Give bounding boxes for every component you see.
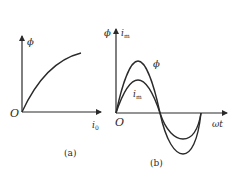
panel-a-y-label: ϕ: [27, 36, 34, 47]
panel-a-caption: (a): [64, 148, 76, 158]
panel-b-im-curve-label-sub: m: [136, 93, 142, 100]
panel-b-y-label-im-sub: m: [124, 32, 130, 39]
panel-a-x-label-sub: 0: [95, 124, 99, 131]
panel-b-im-curve: [116, 80, 201, 139]
panel-b-y-label-im: im: [121, 28, 130, 39]
panel-b: ϕ im ϕ im O ωt (b): [104, 27, 227, 168]
panel-b-caption: (b): [150, 158, 163, 168]
panel-a-x-label: i0: [92, 120, 99, 131]
panel-b-x-label: ωt: [212, 119, 223, 129]
panel-b-origin-label: O: [115, 116, 124, 129]
panel-a-origin-label: O: [10, 107, 19, 120]
panel-b-im-curve-label: im: [133, 89, 142, 100]
diagram-canvas: ϕ O i0 (a) ϕ im ϕ im O ωt (b): [0, 0, 231, 171]
panel-b-y-label-phi: ϕ: [104, 27, 111, 38]
panel-a: ϕ O i0 (a): [10, 36, 101, 158]
panel-a-magnetization-curve: [22, 53, 81, 112]
panel-b-phi-curve-label: ϕ: [153, 58, 160, 69]
